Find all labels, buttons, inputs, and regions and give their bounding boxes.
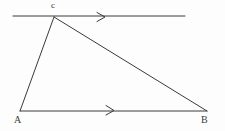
geometry-diagram [0,0,225,131]
vertex-label-b: B [201,115,208,125]
arrow-top-line-icon [97,13,105,22]
geometry-figure-canvas: c A B [0,0,225,131]
triangle-side-cb [54,17,207,111]
vertex-label-a: A [14,115,21,125]
arrow-base-line-icon [106,106,114,116]
vertex-label-c: c [51,1,55,10]
triangle-side-ac [20,17,54,111]
